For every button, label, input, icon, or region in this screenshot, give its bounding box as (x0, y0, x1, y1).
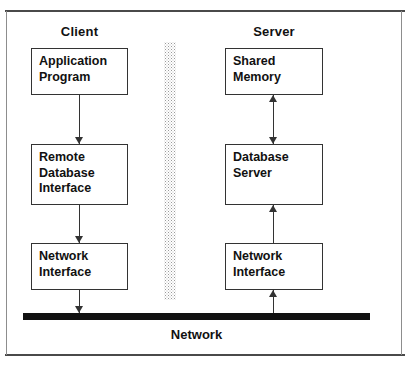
node-label-line: Shared (233, 54, 322, 70)
node-label-line: Memory (233, 70, 322, 86)
arrowhead-up-icon (269, 95, 277, 102)
figure-frame-top-rule (5, 10, 405, 12)
node-label-line: Program (39, 70, 127, 86)
figure-frame-right-rule (401, 11, 402, 355)
node-label-line: Network (233, 249, 322, 265)
node-remote-database-interface[interactable]: Remote Database Interface (31, 144, 128, 205)
node-label-line: Interface (233, 265, 322, 281)
node-label-line: Network (39, 249, 127, 265)
arrowhead-up-icon (269, 205, 277, 212)
node-label-line: Interface (39, 181, 127, 197)
node-label-line: Application (39, 54, 127, 70)
node-label-line: Remote (39, 150, 127, 166)
node-client-network-interface[interactable]: Network Interface (31, 243, 128, 290)
node-application-program[interactable]: Application Program (31, 48, 128, 95)
node-shared-memory[interactable]: Shared Memory (225, 48, 323, 95)
figure-frame-left-rule (6, 11, 7, 355)
node-database-server[interactable]: Database Server (225, 144, 323, 205)
network-bus-label: Network (23, 327, 370, 342)
arrowhead-down-icon (75, 236, 83, 243)
arrowhead-down-icon (269, 137, 277, 144)
arrowhead-down-icon (75, 306, 83, 313)
node-label-line: Interface (39, 265, 127, 281)
node-label-line: Database (233, 150, 322, 166)
node-label-line: Server (233, 166, 322, 182)
node-server-network-interface[interactable]: Network Interface (225, 243, 323, 290)
arrowhead-down-icon (75, 137, 83, 144)
figure-frame-bottom-rule (5, 354, 405, 356)
diagram-canvas: Client Server Application Program Remote… (0, 0, 415, 370)
network-bus (23, 313, 370, 320)
client-server-boundary-divider (164, 42, 176, 300)
column-title-client: Client (31, 24, 128, 39)
node-label-line: Database (39, 166, 127, 182)
column-title-server: Server (225, 24, 323, 39)
arrowhead-up-icon (269, 290, 277, 297)
